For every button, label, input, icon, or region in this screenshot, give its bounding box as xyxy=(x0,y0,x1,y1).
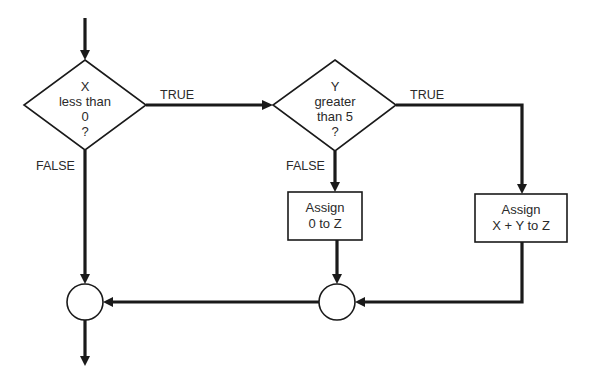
decision-x-line-2: less than xyxy=(59,94,111,109)
y-true-connector xyxy=(396,105,522,186)
decision-y-line-1: Y xyxy=(331,79,340,94)
edge-label-y-true: TRUE xyxy=(410,88,444,102)
x-false-arrowhead-icon xyxy=(80,274,90,284)
decision-x-line-4: ? xyxy=(81,124,88,139)
decision-y-line-3: than 5 xyxy=(317,109,353,124)
join-right-arrowhead-icon xyxy=(103,297,113,307)
entry-arrowhead-icon xyxy=(80,50,90,60)
assign-sum-line-2: X + Y to Z xyxy=(492,218,550,233)
x-true-arrowhead-icon xyxy=(262,100,273,110)
assign-sum-line-1: Assign xyxy=(501,202,540,217)
assign-zero-line-2: 0 to Z xyxy=(308,216,341,231)
assign-sum-arrowhead-icon xyxy=(355,297,365,307)
join-connector-right xyxy=(319,284,355,320)
edge-label-x-true: TRUE xyxy=(160,88,194,102)
decision-x-line-1: X xyxy=(81,79,90,94)
assign-sum-connector xyxy=(363,242,522,302)
y-true-arrowhead-icon xyxy=(517,184,527,194)
process-assign-sum: Assign X + Y to Z xyxy=(475,194,567,242)
exit-arrowhead-icon xyxy=(80,356,90,366)
assign-zero-line-1: Assign xyxy=(305,200,344,215)
decision-y-line-4: ? xyxy=(331,124,338,139)
decision-x-less-than-0: X less than 0 ? xyxy=(24,60,146,150)
decision-y-line-2: greater xyxy=(314,94,356,109)
decision-x-line-3: 0 xyxy=(81,109,88,124)
edge-label-x-false: FALSE xyxy=(36,159,75,173)
join-connector-left xyxy=(67,284,103,320)
flowchart-diagram: X less than 0 ? Y greater than 5 ? Assig… xyxy=(0,0,589,380)
decision-y-greater-than-5: Y greater than 5 ? xyxy=(273,60,396,151)
process-assign-zero: Assign 0 to Z xyxy=(288,192,362,240)
assign-zero-arrowhead-icon xyxy=(332,274,342,284)
edge-label-y-false: FALSE xyxy=(286,159,325,173)
y-false-arrowhead-icon xyxy=(330,182,340,192)
